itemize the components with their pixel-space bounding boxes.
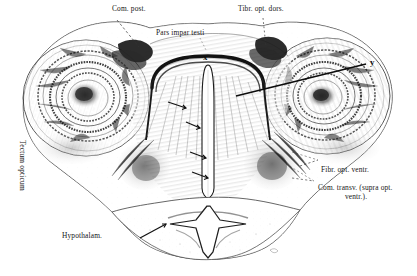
label-tectum-opticum: Tectum opticum xyxy=(18,140,27,191)
marker-y: y xyxy=(370,57,375,67)
hypothalamus xyxy=(112,197,300,259)
label-com-transv-line1: Com. transv. (supra opt. xyxy=(318,183,393,192)
label-hypothalam: Hypothalam. xyxy=(62,231,102,240)
label-com-transv-line2: ventr.). xyxy=(345,192,367,201)
label-tibr-opt-dors: Tibr. opt. dors. xyxy=(238,4,284,13)
label-com-post: Com. post. xyxy=(112,4,146,13)
marker-x: x xyxy=(203,52,208,62)
label-pars-impar-testi: Pars impar testi xyxy=(156,28,204,37)
label-fibr-opt-ventr: Fibr. opt. ventr. xyxy=(321,165,369,174)
